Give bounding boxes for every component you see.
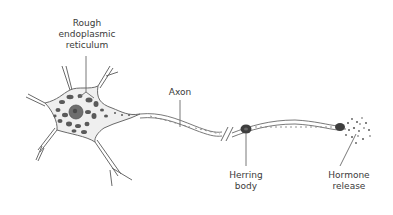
label-herring-body-line1: Herring — [226, 170, 266, 181]
herring-body — [241, 125, 252, 134]
label-hormone-release-line1: Hormone — [324, 170, 374, 181]
label-rough-er-line3: reticulum — [56, 40, 118, 51]
label-axon: Axon — [165, 87, 195, 98]
label-hormone-release: Hormone release — [324, 170, 374, 192]
label-axon-text: Axon — [165, 87, 195, 98]
label-hormone-release-line2: release — [324, 181, 374, 192]
axon-break-marks — [221, 127, 233, 141]
axon — [140, 114, 222, 137]
nucleus — [69, 105, 83, 119]
hormone-granules — [344, 117, 371, 144]
label-rough-er-line1: Rough — [56, 18, 118, 29]
label-rough-er: Rough endoplasmic reticulum — [56, 18, 118, 51]
axon-terminal — [335, 123, 345, 131]
label-rough-er-line2: endoplasmic — [56, 29, 118, 40]
label-herring-body-line2: body — [226, 181, 266, 192]
label-herring-body: Herring body — [226, 170, 266, 192]
